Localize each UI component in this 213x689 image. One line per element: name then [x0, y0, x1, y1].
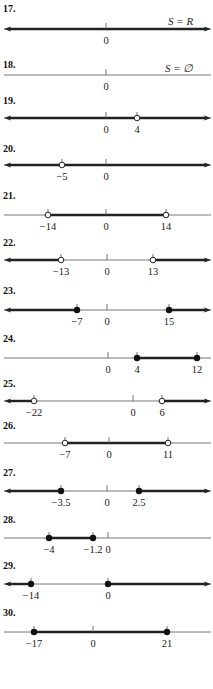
tick-label: −17 — [26, 638, 42, 649]
tick-label: −3.5 — [51, 497, 70, 508]
number-line-problem: 25.−2206 — [3, 378, 211, 418]
problem-number: 28. — [3, 514, 16, 525]
closed-endpoint-icon — [194, 355, 200, 361]
tick-label: 4 — [134, 124, 140, 135]
tick-label: −7 — [59, 449, 70, 460]
tick-label: 0 — [104, 316, 109, 327]
number-line-problem: 30.−17021 — [3, 607, 211, 649]
number-line-problem: 22.−13013 — [3, 237, 211, 277]
tick-label: −5 — [56, 171, 67, 182]
closed-endpoint-icon — [58, 488, 64, 494]
number-line-problem: 18.0S = ∅ — [3, 59, 211, 92]
number-line-problem: 27.−3.502.5 — [3, 467, 211, 508]
open-endpoint-icon — [59, 162, 65, 168]
tick-label: 4 — [134, 364, 140, 375]
solution-set-annotation: S = R — [168, 15, 193, 27]
problem-number: 22. — [3, 237, 16, 248]
problem-number: 29. — [3, 560, 16, 571]
tick-label: −1.2 — [83, 544, 102, 555]
tick-label: 11 — [163, 449, 173, 460]
closed-endpoint-icon — [164, 629, 170, 635]
open-endpoint-icon — [134, 115, 140, 121]
tick-label: −13 — [53, 266, 69, 277]
tick-label: 2.5 — [132, 497, 145, 508]
problem-number: 26. — [3, 420, 16, 431]
tick-label: −4 — [43, 544, 55, 555]
problem-number: 25. — [3, 378, 16, 389]
problem-number: 19. — [3, 95, 16, 106]
tick-label: 0 — [105, 590, 110, 601]
open-endpoint-icon — [159, 398, 165, 404]
open-endpoint-icon — [165, 440, 171, 446]
tick-label: 0 — [103, 171, 108, 182]
tick-label: 0 — [90, 638, 95, 649]
number-line-problem: 19.04 — [3, 95, 211, 135]
tick-label: 0 — [104, 266, 109, 277]
open-endpoint-icon — [62, 440, 68, 446]
number-line-problem: 21.−14014 — [3, 190, 211, 232]
problem-number: 21. — [3, 190, 16, 201]
tick-label: 0 — [103, 221, 108, 232]
tick-label: 15 — [164, 316, 175, 327]
number-line-problem: 24.0412 — [3, 333, 211, 375]
tick-label: −22 — [26, 407, 42, 418]
number-line-problem: 26.−7011 — [3, 420, 211, 460]
tick-label: −7 — [71, 316, 82, 327]
open-endpoint-icon — [150, 257, 156, 263]
closed-endpoint-icon — [74, 307, 80, 313]
tick-label: 12 — [192, 364, 203, 375]
problem-number: 24. — [3, 333, 16, 344]
number-line-problem: 20.−50 — [3, 143, 211, 182]
number-line-figure: 17.0S = R18.0S = ∅19.0420.−5021.−1401422… — [0, 0, 213, 689]
open-endpoint-icon — [163, 212, 169, 218]
problem-number: 17. — [3, 3, 16, 14]
number-line-problem: 23.−7015 — [3, 285, 211, 327]
closed-endpoint-icon — [134, 355, 140, 361]
tick-label: 14 — [161, 221, 172, 232]
solution-set-annotation: S = ∅ — [165, 62, 193, 74]
closed-endpoint-icon — [90, 535, 96, 541]
tick-label: −14 — [40, 221, 57, 232]
tick-label: −14 — [23, 590, 40, 601]
problem-number: 30. — [3, 607, 16, 618]
closed-endpoint-icon — [31, 629, 37, 635]
tick-label: 0 — [103, 124, 108, 135]
tick-label: 0 — [105, 544, 110, 555]
closed-endpoint-icon — [105, 581, 111, 587]
tick-label: 0 — [103, 35, 108, 46]
number-line-problem: 28.−4−1.20 — [3, 514, 211, 555]
tick-label: 0 — [130, 407, 135, 418]
problem-number: 23. — [3, 285, 16, 296]
problem-number: 18. — [3, 59, 16, 70]
closed-endpoint-icon — [28, 581, 34, 587]
tick-label: 21 — [162, 638, 173, 649]
problem-number: 20. — [3, 143, 16, 154]
problem-number: 27. — [3, 467, 16, 478]
tick-label: 0 — [103, 81, 108, 92]
open-endpoint-icon — [58, 257, 64, 263]
closed-endpoint-icon — [46, 535, 52, 541]
tick-label: 6 — [159, 407, 164, 418]
closed-endpoint-icon — [136, 488, 142, 494]
open-endpoint-icon — [45, 212, 51, 218]
closed-endpoint-icon — [166, 307, 172, 313]
open-endpoint-icon — [31, 398, 37, 404]
number-line-problem: 29.−140 — [3, 560, 211, 601]
tick-label: 0 — [104, 497, 109, 508]
tick-label: 0 — [105, 364, 110, 375]
number-line-problem: 17.0S = R — [3, 3, 211, 46]
tick-label: 13 — [148, 266, 159, 277]
tick-label: 0 — [106, 449, 111, 460]
